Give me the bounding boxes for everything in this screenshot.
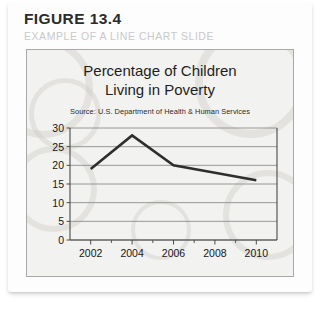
figure-card: FIGURE 13.4 EXAMPLE OF A LINE CHART SLID… (8, 2, 312, 292)
svg-text:25: 25 (52, 141, 64, 153)
svg-text:2002: 2002 (79, 247, 103, 259)
x-axis-ticks (91, 240, 257, 245)
slide-title-line-1: Percentage of Children (27, 62, 293, 81)
slide-title-line-2: Living in Poverty (27, 81, 293, 100)
line-chart: 051015202530 20022004200620082010 (39, 124, 283, 268)
svg-text:10: 10 (52, 197, 64, 209)
x-axis-tick-labels: 20022004200620082010 (79, 247, 268, 259)
svg-text:30: 30 (52, 124, 64, 134)
svg-text:2008: 2008 (203, 247, 227, 259)
data-series-line (91, 135, 257, 180)
svg-text:5: 5 (58, 215, 64, 227)
slide-panel: Percentage of Children Living in Poverty… (26, 49, 294, 277)
svg-text:2004: 2004 (120, 247, 144, 259)
svg-text:20: 20 (52, 159, 64, 171)
figure-number: FIGURE 13.4 (24, 10, 294, 28)
chart-svg: 051015202530 20022004200620082010 (39, 124, 283, 268)
svg-text:0: 0 (58, 234, 64, 246)
svg-text:15: 15 (52, 178, 64, 190)
slide-title: Percentage of Children Living in Poverty (27, 62, 293, 99)
y-axis-tick-labels: 051015202530 (52, 124, 64, 246)
figure-caption: EXAMPLE OF A LINE CHART SLIDE (24, 29, 294, 43)
svg-text:2006: 2006 (162, 247, 186, 259)
slide-source-note: Source: U.S. Department of Health & Huma… (27, 107, 293, 116)
chart-gridlines (70, 128, 277, 240)
figure-header: FIGURE 13.4 EXAMPLE OF A LINE CHART SLID… (24, 10, 294, 43)
svg-text:2010: 2010 (245, 247, 269, 259)
